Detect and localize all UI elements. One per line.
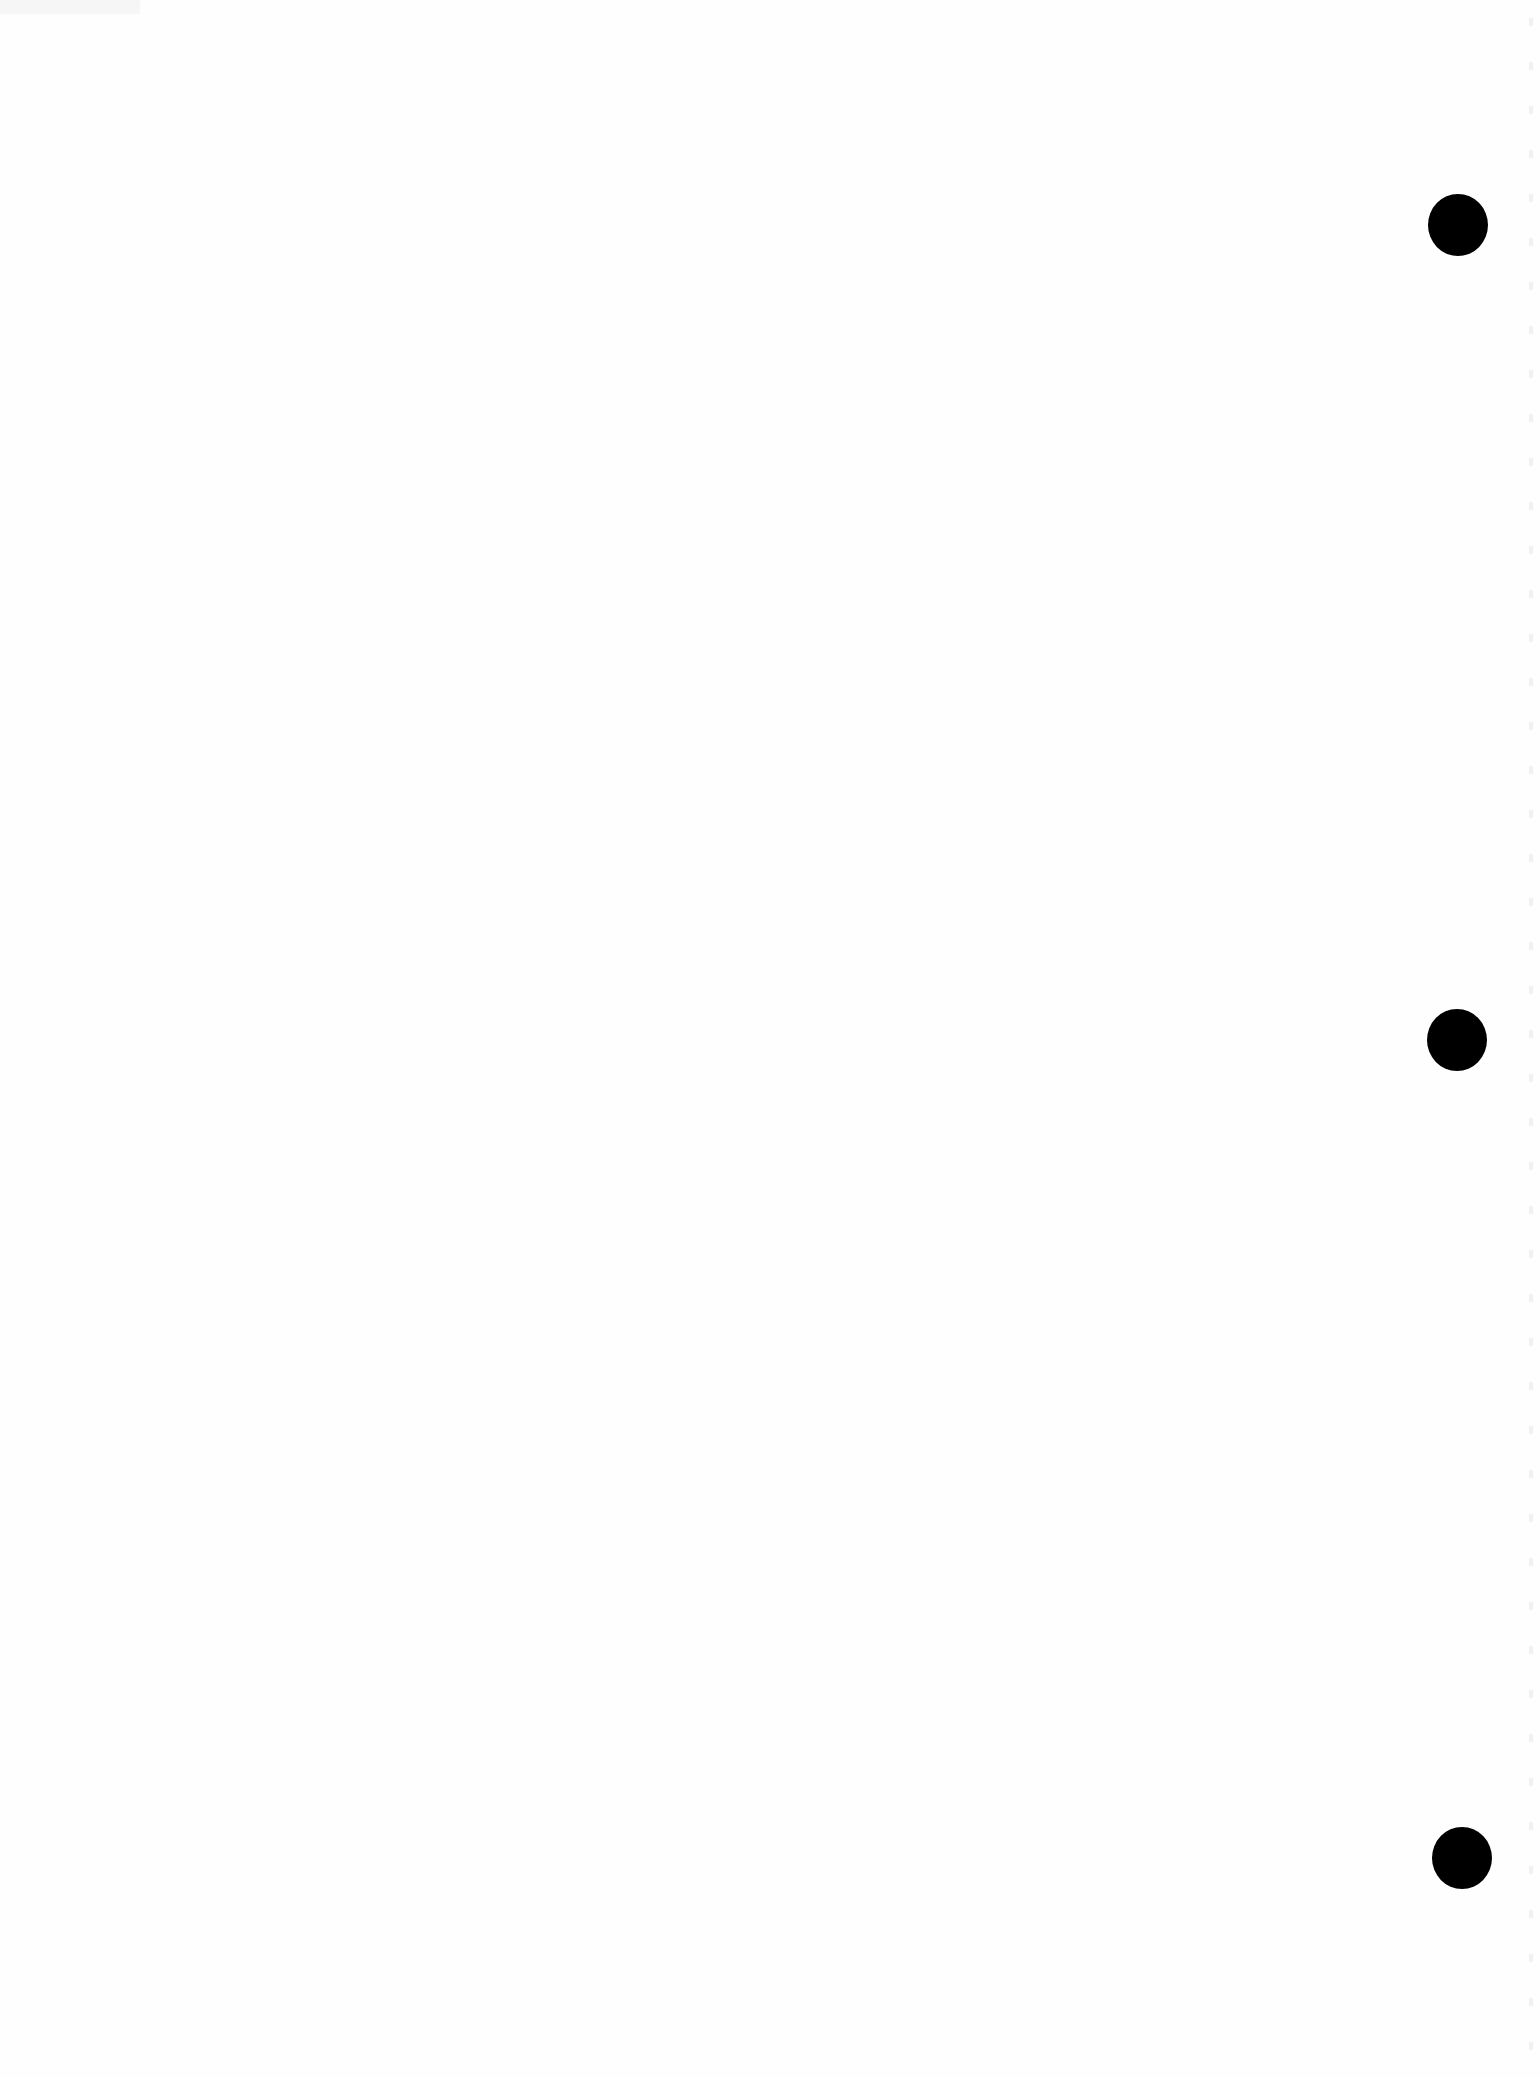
page-edge-bleed-marks xyxy=(1529,0,1533,2077)
blank-page xyxy=(0,0,1540,2077)
punch-hole-middle xyxy=(1427,1009,1487,1071)
punch-hole-bottom xyxy=(1432,1827,1492,1889)
punch-hole-top xyxy=(1428,194,1488,256)
scan-artifact xyxy=(0,0,140,14)
